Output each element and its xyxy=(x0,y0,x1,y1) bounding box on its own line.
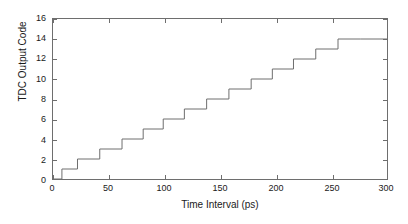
x-tick-label-0: 0 xyxy=(32,183,72,194)
y-tick-label-2: 2 xyxy=(22,155,46,165)
staircase-data-line xyxy=(53,19,387,179)
x-axis-title: Time Interval (ps) xyxy=(52,199,388,210)
y-tick-label-8: 8 xyxy=(22,94,46,104)
y-tick-right-0 xyxy=(383,179,387,180)
x-tick-label-300: 300 xyxy=(366,183,406,194)
plot-area xyxy=(52,18,388,180)
x-tick-label-200: 200 xyxy=(256,183,296,194)
y-tick-label-4: 4 xyxy=(22,135,46,145)
y-tick-label-10: 10 xyxy=(22,74,46,84)
x-tick-label-250: 250 xyxy=(312,183,352,194)
x-tick-label-150: 150 xyxy=(200,183,240,194)
chart-figure: TDC Output Code 16 14 12 10 8 6 4 2 0 xyxy=(0,0,408,224)
x-tick-label-50: 50 xyxy=(88,183,128,194)
y-tick-0 xyxy=(53,179,57,180)
y-tick-label-12: 12 xyxy=(22,53,46,63)
x-tick-label-100: 100 xyxy=(144,183,184,194)
y-tick-label-6: 6 xyxy=(22,114,46,124)
x-tick-top-300 xyxy=(387,19,388,23)
y-tick-label-14: 14 xyxy=(22,33,46,43)
y-tick-label-16: 16 xyxy=(22,13,46,23)
x-tick-300 xyxy=(387,175,388,179)
